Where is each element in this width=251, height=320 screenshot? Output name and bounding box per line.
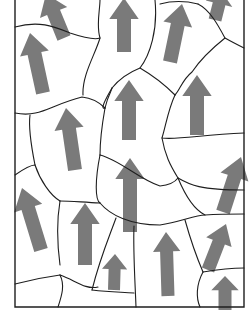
up-arrow-icon bbox=[114, 80, 143, 140]
orientation-arrows bbox=[14, 0, 248, 310]
grain-boundary bbox=[15, 97, 105, 114]
grain-boundary bbox=[96, 155, 100, 203]
up-arrow-icon bbox=[14, 188, 48, 252]
grain-boundary bbox=[140, 68, 175, 95]
grain-boundary bbox=[60, 201, 100, 203]
grain-orientation-diagram bbox=[0, 0, 251, 320]
grain-boundary bbox=[15, 275, 60, 284]
up-arrow-icon bbox=[163, 4, 192, 63]
grain-boundary bbox=[100, 108, 105, 155]
diagram-canvas bbox=[0, 0, 251, 320]
grain-boundary bbox=[100, 203, 205, 225]
grain-boundary bbox=[15, 165, 35, 175]
grain-boundary bbox=[134, 226, 136, 307]
grain-boundary bbox=[100, 155, 178, 186]
grain-boundary bbox=[83, 0, 100, 95]
grain-boundary bbox=[92, 290, 134, 293]
grain-boundary bbox=[35, 165, 60, 201]
up-arrow-icon bbox=[40, 0, 71, 41]
up-arrow-icon bbox=[102, 254, 127, 290]
grain-boundary bbox=[60, 275, 98, 288]
up-arrow-icon bbox=[109, 0, 138, 52]
up-arrow-icon bbox=[206, 0, 233, 22]
up-arrow-icon bbox=[182, 75, 211, 135]
up-arrow-icon bbox=[211, 276, 238, 310]
grain-boundary bbox=[185, 220, 203, 272]
grain-boundary bbox=[197, 272, 203, 307]
grain-boundary bbox=[58, 201, 60, 265]
grain-boundary bbox=[58, 275, 63, 307]
up-arrow-icon bbox=[202, 224, 232, 272]
grain-boundary bbox=[29, 115, 35, 165]
up-arrow-icon bbox=[20, 33, 50, 95]
up-arrow-icon bbox=[153, 232, 180, 296]
up-arrow-icon bbox=[70, 203, 99, 265]
grain-boundary bbox=[160, 2, 198, 4]
up-arrow-icon bbox=[55, 108, 84, 171]
